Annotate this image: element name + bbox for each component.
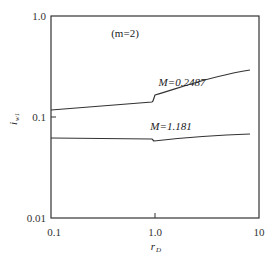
y-tick-label-0.01: 0.01 xyxy=(27,212,46,224)
x-tick-label-10: 10 xyxy=(254,226,266,238)
series-line-m-1.181 xyxy=(51,134,250,141)
svg-text:i: i xyxy=(7,122,19,125)
plot-frame xyxy=(51,16,259,218)
svg-text:D: D xyxy=(155,246,161,254)
svg-text:r: r xyxy=(151,240,156,252)
x-tick-label-1.0: 1.0 xyxy=(148,226,162,238)
series-line-m-0.2487 xyxy=(51,70,250,110)
chart: 1.0 0.1 0.01 0.1 1.0 10 r D i w1 (m=2) M… xyxy=(0,0,276,257)
x-axis-label: r D xyxy=(151,240,161,254)
series-label-m-1.181: M=1.181 xyxy=(149,120,191,132)
y-tick-label-0.1: 0.1 xyxy=(32,111,46,123)
series-label-m-0.2487: M=0.2487 xyxy=(158,76,206,88)
y-tick-label-1.0: 1.0 xyxy=(32,10,46,22)
param-annotation: (m=2) xyxy=(111,27,139,40)
x-tick-label-0.1: 0.1 xyxy=(47,226,61,238)
svg-text:w1: w1 xyxy=(13,113,21,121)
y-axis-label: i w1 xyxy=(7,113,21,125)
